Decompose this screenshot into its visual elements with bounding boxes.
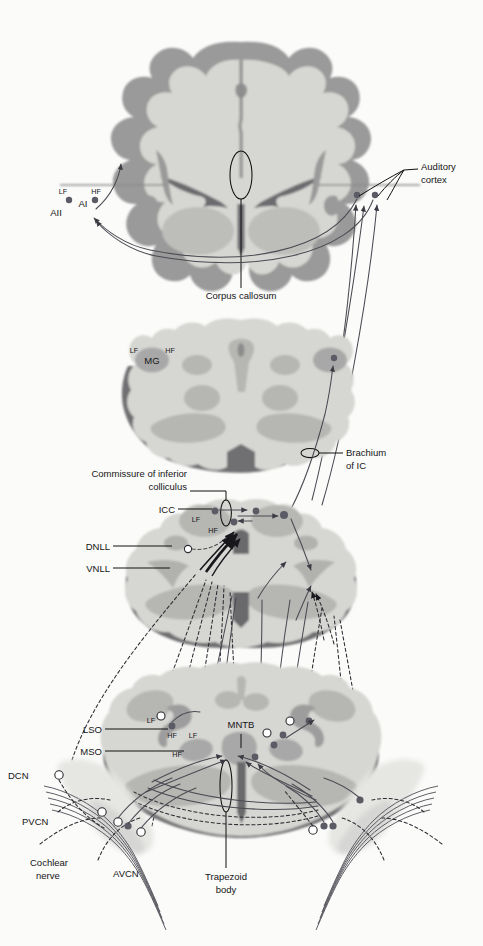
thalamic-nucleus-d	[262, 385, 298, 411]
ai-lf-label: LF	[59, 187, 68, 196]
corpus-callosum-label: Corpus callosum	[206, 290, 277, 301]
pontine-blob-midleft	[215, 691, 241, 709]
lso-neuron-lf	[157, 712, 165, 720]
dnll-neuron-soma	[184, 545, 191, 552]
mso-label: MSO	[80, 746, 102, 757]
icc-neuron-right-b	[280, 511, 288, 519]
lso-neuron-hf	[169, 723, 176, 730]
central-auditory-pathway-figure: Corpus callosum LF HF AI AII Auditory co…	[0, 0, 483, 946]
right-cortex-soma-1	[354, 192, 360, 198]
mntb-label: MNTB	[228, 719, 255, 730]
right-thalamic-mass	[248, 207, 320, 255]
right-cn-neuron-c	[329, 822, 336, 829]
thalamic-slit	[238, 343, 245, 357]
mntb-neuron-a	[280, 732, 287, 739]
mso-hf-label: HF	[172, 750, 182, 759]
section-thalamus	[122, 318, 355, 472]
ai-hf-label: HF	[91, 187, 101, 196]
mg-hf-label: HF	[165, 346, 175, 355]
mg-label: MG	[144, 355, 159, 366]
mg-lf-label: LF	[130, 346, 139, 355]
brachium-of-ic-label-line1: Brachium	[346, 447, 386, 458]
thalamic-nucleus-c	[184, 385, 220, 411]
icc-neuron-right-a	[253, 508, 260, 515]
pontine-blob-midright	[243, 693, 269, 711]
mntb-neuron-c	[271, 742, 278, 749]
brachium-of-ic-label-line2: of IC	[346, 460, 366, 471]
commissure-label-line2: colliculus	[148, 481, 187, 492]
lso-label: LSO	[83, 724, 102, 735]
ic-midline-decussation	[233, 530, 249, 555]
mso-lf-label: LF	[189, 731, 198, 740]
trapezoid-body-label-line1: Trapezoid	[205, 871, 247, 882]
lso-lf-label: LF	[147, 716, 156, 725]
icc-neuron-lf	[212, 508, 219, 515]
pons-midline-lower	[237, 762, 246, 824]
thalamic-nucleus-a	[182, 355, 212, 375]
right-cortex-soma-2	[372, 192, 378, 198]
ai-neuron-soma	[92, 197, 98, 203]
icc-hf-label: HF	[208, 526, 218, 535]
icc-label: ICC	[159, 504, 176, 515]
commissure-label-line1: Commissure of inferior	[91, 468, 187, 479]
dcn-neuron	[55, 771, 63, 779]
icc-lf-label: LF	[192, 515, 201, 524]
right-cn-neuron-a	[309, 826, 317, 834]
figure-canvas: Corpus callosum LF HF AI AII Auditory co…	[0, 0, 483, 946]
lso-neuron-right	[286, 717, 294, 725]
auditory-cortex-label-line1: Auditory	[421, 161, 456, 172]
auditory-cortex-label-line2: cortex	[421, 174, 447, 185]
aii-label: AII	[50, 207, 62, 218]
mso-neuron-right	[252, 754, 259, 761]
dnll-nucleus-right	[294, 536, 318, 551]
thalamic-nucleus-b	[270, 355, 300, 375]
dcn-label: DCN	[8, 770, 29, 781]
right-cn-neuron-b	[320, 822, 327, 829]
pvcn-neuron-b	[114, 818, 122, 826]
vnll-label: VNLL	[86, 563, 110, 574]
mg-right-neuron-soma	[331, 355, 337, 361]
cochlear-nerve-label-line1: Cochlear	[30, 857, 68, 868]
lso-hf-label: HF	[167, 731, 177, 740]
avcn-neuron-b	[137, 828, 145, 836]
pvcn-neuron-a	[98, 808, 106, 816]
left-thalamic-mass	[162, 207, 234, 255]
pvcn-label: PVCN	[22, 816, 49, 827]
aii-neuron-soma	[66, 197, 72, 203]
cochlear-nerve-label-line2: nerve	[36, 870, 60, 881]
ai-label: AI	[79, 198, 88, 209]
icc-neuron-hf	[231, 519, 238, 526]
dnll-label: DNLL	[86, 541, 110, 552]
avcn-label: AVCN	[113, 868, 139, 879]
mntb-neuron-b	[263, 729, 271, 737]
mg-nucleus-right	[313, 348, 347, 373]
trapezoid-body-label-line2: body	[216, 884, 237, 895]
